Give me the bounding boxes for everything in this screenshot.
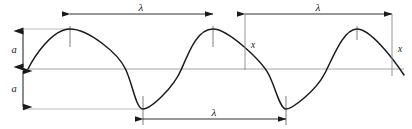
- wavelength-top-left-label: λ: [138, 1, 144, 13]
- amplitude-lower-label: a: [11, 83, 16, 94]
- displacement-left-label: x: [250, 40, 256, 50]
- wavelength-top-right-group: λ: [245, 1, 392, 14]
- amplitude-upper-label: a: [11, 44, 16, 55]
- wavelength-bottom-label: λ: [211, 106, 217, 118]
- wave-diagram-figure: a a λ λ λ x x: [0, 0, 412, 129]
- amplitude-annotation-group: a a: [11, 31, 23, 107]
- wavelength-bottom-group: λ: [143, 106, 286, 119]
- displacement-annotation-group: x x: [245, 14, 403, 76]
- wavelength-top-right-label: λ: [315, 1, 321, 13]
- wavelength-top-left-group: λ: [70, 1, 213, 14]
- wave-diagram-container: a a λ λ λ x x: [0, 0, 412, 129]
- displacement-right-label: x: [397, 44, 403, 54]
